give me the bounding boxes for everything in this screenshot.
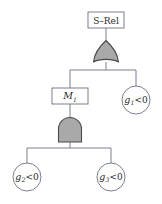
basic-event-g1[interactable]: g1<0 bbox=[122, 86, 150, 114]
basic-event-g3-label: g3<0 bbox=[99, 171, 123, 183]
and-gate[interactable] bbox=[59, 118, 82, 142]
fault-tree-canvas: S–Rel M1 g1<0 g2<0 bbox=[0, 0, 162, 204]
basic-event-g2[interactable]: g2<0 bbox=[13, 163, 41, 191]
top-event-box[interactable]: S–Rel bbox=[88, 12, 124, 28]
intermediate-event-box[interactable]: M1 bbox=[52, 88, 88, 104]
fault-tree-diagram: S–Rel M1 g1<0 g2<0 bbox=[0, 0, 162, 204]
or-gate-symbol bbox=[94, 41, 119, 63]
basic-event-g2-relation: <0 bbox=[25, 172, 39, 182]
intermediate-event-label-base: M bbox=[62, 90, 73, 101]
basic-event-g1-label: g1<0 bbox=[124, 94, 148, 106]
top-event-label: S–Rel bbox=[93, 16, 119, 26]
basic-event-g2-label: g2<0 bbox=[15, 171, 39, 183]
intermediate-event-label-sub: 1 bbox=[73, 96, 77, 103]
or-gate[interactable] bbox=[94, 41, 119, 63]
basic-event-g1-relation: <0 bbox=[134, 95, 148, 105]
basic-event-g3-relation: <0 bbox=[109, 172, 123, 182]
and-gate-symbol bbox=[59, 118, 82, 142]
basic-event-g3[interactable]: g3<0 bbox=[97, 163, 125, 191]
